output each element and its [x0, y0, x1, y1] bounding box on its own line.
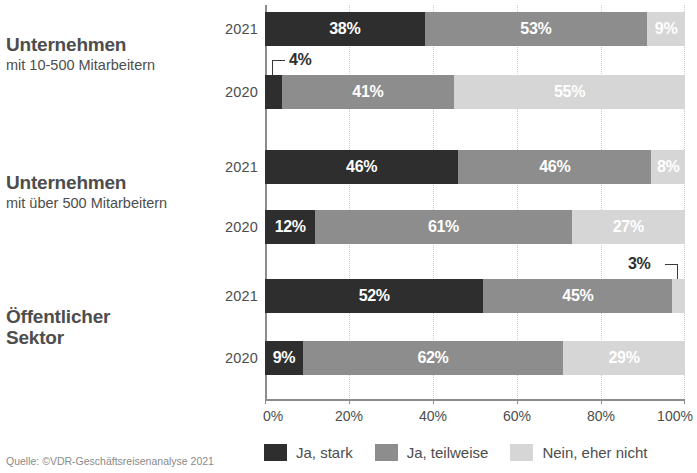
legend-label: Nein, eher nicht	[542, 444, 647, 461]
category-subtitle: mit über 500 Mitarbeitern	[6, 195, 216, 212]
segment-ja-stark[interactable]: 9%	[265, 341, 303, 375]
segment-value: 52%	[359, 287, 390, 305]
segment-value: 12%	[275, 218, 306, 236]
segment-ja-teilweise[interactable]: 46%	[458, 150, 651, 184]
segment-nein-eher-nicht[interactable]: 9%	[647, 12, 685, 46]
category-title: Öffentlicher	[6, 306, 216, 327]
segment-value: 9%	[655, 20, 678, 38]
legend-item-ja-teilweise[interactable]: Ja, teilweise	[375, 444, 489, 461]
year-label-g3-2020: 2020	[216, 350, 258, 366]
x-axis-line	[265, 399, 685, 401]
segment-ja-teilweise[interactable]: 45%	[483, 279, 672, 313]
segment-ja-stark[interactable]: 46%	[265, 150, 458, 184]
segment-value: 46%	[346, 158, 377, 176]
legend-swatch-icon	[264, 444, 287, 461]
segment-ja-stark[interactable]	[265, 75, 282, 109]
segment-value: 29%	[609, 349, 640, 367]
segment-ja-teilweise[interactable]: 53%	[425, 12, 648, 46]
category-label-large-companies: Unternehmen mit über 500 Mitarbeitern	[6, 172, 216, 213]
segment-ja-stark[interactable]: 38%	[265, 12, 425, 46]
segment-value: 27%	[613, 218, 644, 236]
xtick-label-40: 40%	[419, 408, 447, 424]
legend-label: Ja, teilweise	[407, 444, 489, 461]
category-label-public-sector: Öffentlicher Sektor	[6, 306, 216, 349]
tick-100	[684, 399, 685, 404]
callout-leader-vertical-4-percent	[272, 61, 273, 75]
segment-nein-eher-nicht[interactable]: 29%	[563, 341, 685, 375]
tick-0	[265, 399, 266, 404]
segment-value: 45%	[562, 287, 593, 305]
callout-leader-vertical-3-percent	[677, 264, 678, 279]
bar-row-large-2021[interactable]: 46% 46% 8%	[265, 150, 685, 184]
xtick-label-100: 100%	[657, 408, 693, 424]
segment-value: 38%	[329, 20, 360, 38]
callout-label-3-percent: 3%	[628, 255, 651, 273]
xtick-label-20: 20%	[335, 408, 363, 424]
category-label-small-companies: Unternehmen mit 10-500 Mitarbeitern	[6, 34, 216, 75]
legend-item-ja-stark[interactable]: Ja, stark	[264, 444, 353, 461]
segment-value: 8%	[657, 158, 680, 176]
tick-40	[433, 399, 434, 404]
year-label-g1-2020: 2020	[216, 84, 258, 100]
segment-nein-eher-nicht[interactable]	[672, 279, 685, 313]
segment-nein-eher-nicht[interactable]: 55%	[454, 75, 685, 109]
legend-swatch-icon	[375, 444, 398, 461]
segment-ja-teilweise[interactable]: 61%	[315, 210, 571, 244]
chart-plot-area: 38% 53% 9% 41% 55% 4% 46% 46% 8%	[265, 5, 685, 400]
year-label-g2-2021: 2021	[216, 159, 258, 175]
tick-20	[349, 399, 350, 404]
chart-legend: Ja, stark Ja, teilweise Nein, eher nicht	[264, 444, 669, 461]
xtick-label-0: 0%	[263, 408, 283, 424]
segment-ja-stark[interactable]: 12%	[265, 210, 315, 244]
source-note: Quelle: ©VDR-Geschäftsreisenanalyse 2021	[6, 455, 214, 467]
callout-label-4-percent: 4%	[289, 51, 312, 69]
segment-nein-eher-nicht[interactable]: 27%	[572, 210, 685, 244]
segment-value: 53%	[520, 20, 551, 38]
segment-value: 61%	[428, 218, 459, 236]
segment-nein-eher-nicht[interactable]: 8%	[651, 150, 685, 184]
legend-item-nein-eher-nicht[interactable]: Nein, eher nicht	[510, 444, 647, 461]
bar-row-public-2021[interactable]: 52% 45%	[265, 279, 685, 313]
legend-label: Ja, stark	[296, 444, 353, 461]
callout-leader-horizontal-4-percent	[272, 60, 285, 61]
bar-row-small-2020[interactable]: 41% 55%	[265, 75, 685, 109]
bar-row-public-2020[interactable]: 9% 62% 29%	[265, 341, 685, 375]
category-title-line2: Sektor	[6, 327, 216, 348]
xtick-label-60: 60%	[503, 408, 531, 424]
category-title: Unternehmen	[6, 172, 216, 193]
segment-ja-stark[interactable]: 52%	[265, 279, 483, 313]
bar-row-large-2020[interactable]: 12% 61% 27%	[265, 210, 685, 244]
category-subtitle: mit 10-500 Mitarbeitern	[6, 57, 216, 74]
segment-value: 46%	[539, 158, 570, 176]
tick-60	[517, 399, 518, 404]
year-label-g1-2021: 2021	[216, 21, 258, 37]
segment-ja-teilweise[interactable]: 41%	[282, 75, 454, 109]
segment-value: 9%	[273, 349, 296, 367]
bar-row-small-2021[interactable]: 38% 53% 9%	[265, 12, 685, 46]
segment-value: 41%	[352, 83, 383, 101]
year-label-g2-2020: 2020	[216, 219, 258, 235]
segment-value: 55%	[554, 83, 585, 101]
tick-80	[601, 399, 602, 404]
year-label-g3-2021: 2021	[216, 288, 258, 304]
category-title: Unternehmen	[6, 34, 216, 55]
segment-ja-teilweise[interactable]: 62%	[303, 341, 563, 375]
segment-value: 62%	[417, 349, 448, 367]
xtick-label-80: 80%	[587, 408, 615, 424]
legend-swatch-icon	[510, 444, 533, 461]
